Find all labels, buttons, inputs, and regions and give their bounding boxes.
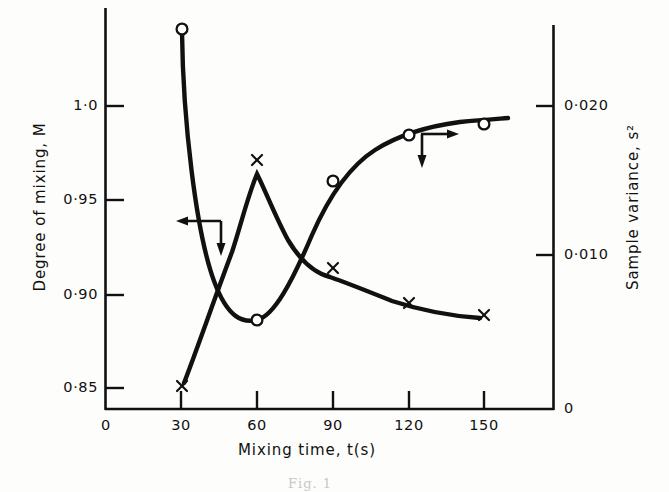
data-point xyxy=(479,119,490,130)
data-point xyxy=(328,263,338,273)
y-right-tick-label: 0·010 xyxy=(564,246,624,262)
data-point xyxy=(252,315,263,326)
figure-caption: Fig. 1 xyxy=(288,476,332,491)
y-left-tick-label: 1·0 xyxy=(42,97,98,113)
y-left-tick-label: 0·95 xyxy=(42,191,98,207)
series-sample-variance xyxy=(177,155,489,391)
data-point xyxy=(252,155,262,165)
curve-sample-variance xyxy=(184,174,480,383)
y-right-ticks xyxy=(536,106,553,255)
x-tick-label: 30 xyxy=(161,417,201,433)
x-ticks xyxy=(181,391,484,409)
data-point xyxy=(177,24,188,35)
y-left-tick-label: 0·90 xyxy=(42,286,98,302)
x-axis-title: Mixing time, t(s) xyxy=(238,441,376,459)
x-tick-label: 150 xyxy=(464,417,504,433)
figure-panel: Degree of mixing, M Sample variance, s² … xyxy=(0,0,669,492)
y-right-tick-label: 0 xyxy=(564,400,624,416)
y-left-ticks xyxy=(106,106,124,388)
axis-lines xyxy=(105,8,554,410)
x-tick-label: 120 xyxy=(389,417,429,433)
y-left-tick-label: 0·85 xyxy=(42,379,98,395)
data-point xyxy=(328,176,339,187)
data-point xyxy=(479,310,489,320)
x-tick-label: 60 xyxy=(237,417,277,433)
data-point xyxy=(404,130,415,141)
x-tick-label: 0 xyxy=(86,417,126,433)
curve-degree-of-mixing xyxy=(182,32,508,321)
annotation-right-axis-pointer xyxy=(418,130,460,169)
y-right-tick-label: 0·020 xyxy=(564,97,624,113)
x-tick-label: 90 xyxy=(313,417,353,433)
y-axis-right-title: Sample variance, s² xyxy=(624,82,642,332)
